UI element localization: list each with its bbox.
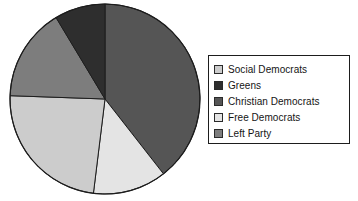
legend-swatch-left-party xyxy=(214,129,223,138)
legend-item-social-democrats[interactable]: Social Democrats xyxy=(214,61,349,77)
chart-legend: Social Democrats Greens Christian Democr… xyxy=(208,55,350,144)
legend-swatch-social-democrats xyxy=(214,65,223,74)
pie-chart-figure: Social Democrats Greens Christian Democr… xyxy=(0,0,358,201)
pie-slice-group xyxy=(10,4,200,194)
legend-item-greens[interactable]: Greens xyxy=(214,77,349,93)
legend-label-free-democrats: Free Democrats xyxy=(228,112,300,123)
pie-slice-social-democrats[interactable] xyxy=(10,96,105,194)
legend-item-free-democrats[interactable]: Free Democrats xyxy=(214,109,349,125)
legend-swatch-greens xyxy=(214,81,223,90)
legend-label-left-party: Left Party xyxy=(228,128,271,139)
legend-swatch-free-democrats xyxy=(214,113,223,122)
legend-label-social-democrats: Social Democrats xyxy=(228,64,307,75)
legend-item-christian-democrats[interactable]: Christian Democrats xyxy=(214,93,349,109)
legend-item-left-party[interactable]: Left Party xyxy=(214,125,349,141)
legend-swatch-christian-democrats xyxy=(214,97,223,106)
legend-label-christian-democrats: Christian Democrats xyxy=(228,96,320,107)
legend-label-greens: Greens xyxy=(228,80,261,91)
